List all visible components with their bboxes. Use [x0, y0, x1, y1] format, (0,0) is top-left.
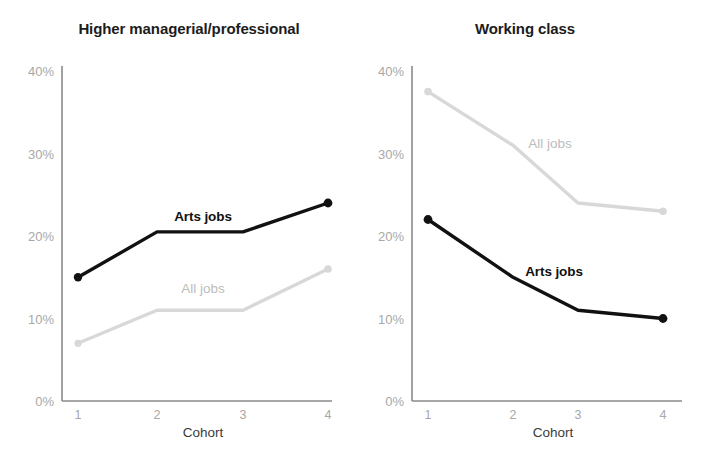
left-all-jobs-marker-end: [324, 265, 332, 273]
left-plot-area: [0, 0, 360, 462]
left-arts-jobs-marker-start: [74, 273, 82, 281]
left-x-axis-title: Cohort: [183, 425, 224, 440]
dual-line-chart-figure: Higher managerial/professional 40% 30% 2…: [0, 0, 706, 462]
right-xtick-3: 3: [575, 408, 582, 422]
right-plot-area: [360, 0, 706, 462]
left-xtick-3: 3: [240, 408, 247, 422]
right-series-label-arts-jobs: Arts jobs: [525, 264, 583, 279]
chart-panel-higher-managerial: Higher managerial/professional 40% 30% 2…: [0, 0, 360, 462]
right-all-jobs-marker-start: [424, 88, 432, 96]
left-ytick-20: 20%: [14, 229, 54, 244]
right-ytick-30: 30%: [364, 146, 404, 161]
right-x-axis-title: Cohort: [533, 425, 574, 440]
right-all-jobs-marker-end: [659, 208, 667, 216]
left-xtick-4: 4: [325, 408, 332, 422]
left-ytick-0: 0%: [14, 394, 54, 409]
right-ytick-10: 10%: [364, 311, 404, 326]
right-series-label-all-jobs: All jobs: [528, 136, 572, 151]
right-xtick-2: 2: [510, 408, 517, 422]
right-xtick-1: 1: [425, 408, 432, 422]
chart-panel-working-class: Working class 40% 30% 20% 10% 0% 1 2 3 4…: [360, 0, 706, 462]
right-ytick-0: 0%: [364, 394, 404, 409]
right-arts-jobs-marker-end: [659, 314, 668, 323]
right-arts-jobs-marker-start: [424, 215, 433, 224]
right-xtick-4: 4: [660, 408, 667, 422]
left-all-jobs-marker-start: [74, 340, 81, 347]
left-series-label-arts-jobs: Arts jobs: [174, 209, 232, 224]
left-ytick-10: 10%: [14, 311, 54, 326]
left-ytick-30: 30%: [14, 146, 54, 161]
left-arts-jobs-marker-end: [324, 199, 333, 208]
right-ytick-40: 40%: [364, 64, 404, 79]
right-ytick-20: 20%: [364, 229, 404, 244]
left-series-label-all-jobs: All jobs: [181, 281, 225, 296]
left-xtick-2: 2: [154, 408, 161, 422]
left-xtick-1: 1: [75, 408, 82, 422]
right-all-jobs-line: [428, 92, 663, 212]
left-ytick-40: 40%: [14, 64, 54, 79]
